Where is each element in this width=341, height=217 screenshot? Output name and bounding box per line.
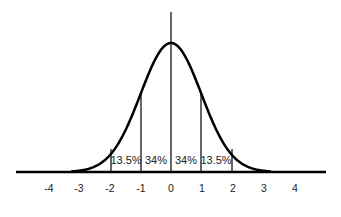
region-label-minus2-minus1: 13.5% [110,154,141,166]
tick-label: 4 [292,182,298,194]
tick-label: 3 [261,182,267,194]
region-label-0-plus1: 34% [175,154,197,166]
tick-label: -4 [44,182,53,194]
tick-label: 1 [199,182,205,194]
normal-distribution-diagram: 13.5% 34% 34% 13.5% -4 -3 -2 -1 0 1 2 3 … [0,0,341,217]
region-label-minus1-0: 34% [145,154,167,166]
tick-label: -2 [105,182,114,194]
tick-label: 0 [168,182,174,194]
tick-label: 2 [230,182,236,194]
region-label-plus1-plus2: 13.5% [200,154,231,166]
tick-label: -1 [136,182,145,194]
tick-label: -3 [74,182,83,194]
